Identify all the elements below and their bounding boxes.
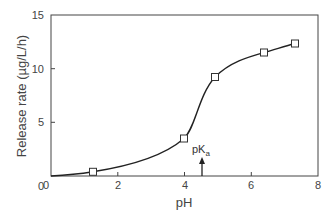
y-axis-label: Release rate (µg/L/h) bbox=[14, 35, 29, 157]
pka-annotation: pKa bbox=[192, 143, 210, 176]
data-point bbox=[90, 168, 97, 175]
pka-label: pKa bbox=[192, 143, 210, 158]
x-tick-label: 8 bbox=[315, 179, 321, 191]
arrow-up-icon bbox=[199, 157, 205, 164]
x-ticks bbox=[118, 172, 252, 176]
release-curve bbox=[51, 44, 295, 177]
data-point bbox=[261, 49, 268, 56]
x-axis-label: pH bbox=[176, 195, 193, 210]
data-point bbox=[292, 40, 299, 47]
x-tick-label: 2 bbox=[115, 179, 121, 191]
data-point bbox=[212, 74, 219, 81]
x-tick-label: 6 bbox=[248, 179, 254, 191]
x-tick-label: 4 bbox=[182, 179, 188, 191]
y-ticks bbox=[51, 69, 55, 123]
x-tick-label: 0 bbox=[43, 179, 49, 191]
data-markers bbox=[90, 40, 299, 175]
data-point bbox=[181, 135, 188, 142]
chart: 0 5 10 15 0 2 4 6 8 pH Release rate (µg/… bbox=[0, 0, 335, 212]
y-tick-label: 15 bbox=[32, 9, 44, 21]
plot-frame bbox=[51, 15, 318, 176]
y-tick-label: 5 bbox=[38, 116, 44, 128]
y-tick-label: 10 bbox=[32, 63, 44, 75]
